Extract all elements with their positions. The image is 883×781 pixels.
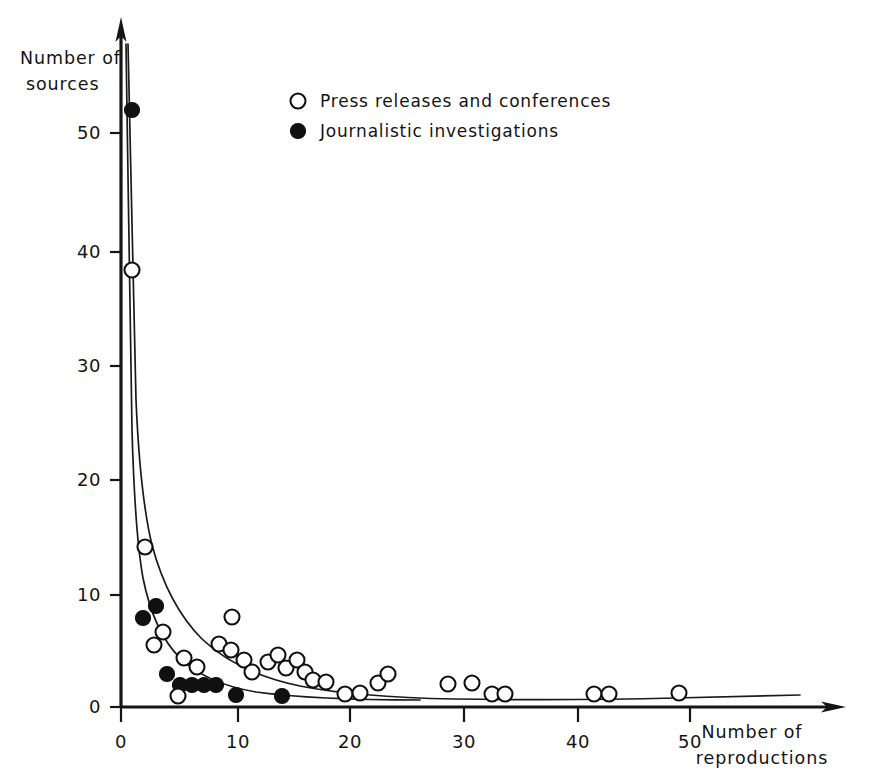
data-point-open [156,625,171,640]
legend-label-journalistic: Journalistic investigations [319,121,559,141]
chart-figure: 0 10 20 30 40 50 0 10 20 30 40 50 Number… [0,0,883,781]
fitted-curves [126,44,800,700]
data-point-open [338,687,353,702]
data-point-open [602,687,617,702]
x-ticklabel-30: 30 [452,731,476,752]
y-ticklabel-30: 30 [77,355,101,376]
x-ticklabel-20: 20 [338,731,362,752]
y-axis-ticks: 0 10 20 30 40 50 [77,122,121,717]
data-point-open [319,675,334,690]
x-ticklabel-0: 0 [115,731,127,752]
x-ticklabel-40: 40 [566,731,590,752]
data-point-filled [149,599,164,614]
legend-marker-filled-circle-icon [291,124,306,139]
data-point-open [190,660,205,675]
x-axis-label-line1: Number of [702,722,803,742]
y-axis-label-line2: sources [26,74,100,94]
data-point-filled [160,667,175,682]
data-point-open [587,687,602,702]
y-ticklabel-20: 20 [77,469,101,490]
data-point-open [245,665,260,680]
legend-label-press-releases: Press releases and conferences [320,91,611,111]
series-journalistic-investigations [125,103,290,704]
data-point-filled [209,678,224,693]
axis-titles: Number of sources Number of reproduction… [20,48,828,768]
x-axis-label: reproductions [696,748,828,768]
y-axis-label-line1: Number of [20,48,121,68]
scatter-plot: 0 10 20 30 40 50 0 10 20 30 40 50 Number… [0,0,883,781]
data-point-open [441,677,456,692]
data-point-open [465,676,480,691]
data-point-open [498,687,513,702]
data-point-open [353,686,368,701]
data-point-open [147,638,162,653]
y-ticklabel-0: 0 [89,696,101,717]
y-ticklabel-40: 40 [77,241,101,262]
curve-journalistic [126,44,420,700]
data-point-filled [136,611,151,626]
y-ticklabel-10: 10 [77,584,101,605]
data-point-filled [229,688,244,703]
data-point-open [177,651,192,666]
y-ticklabel-50: 50 [77,122,101,143]
data-point-open [138,540,153,555]
data-point-open [225,610,240,625]
data-point-open [125,263,140,278]
x-axis-ticks: 0 10 20 30 40 50 [115,707,702,752]
data-point-open [171,689,186,704]
curve-press-releases [128,44,800,700]
data-point-open [381,667,396,682]
data-point-open [224,643,239,658]
legend-marker-open-circle-icon [291,94,306,109]
data-point-filled [125,103,140,118]
series-press-releases-and-conferences [125,263,687,704]
data-point-open [672,686,687,701]
chart-legend: Press releases and conferences Journalis… [291,91,612,141]
data-point-filled [275,689,290,704]
x-ticklabel-10: 10 [226,731,250,752]
